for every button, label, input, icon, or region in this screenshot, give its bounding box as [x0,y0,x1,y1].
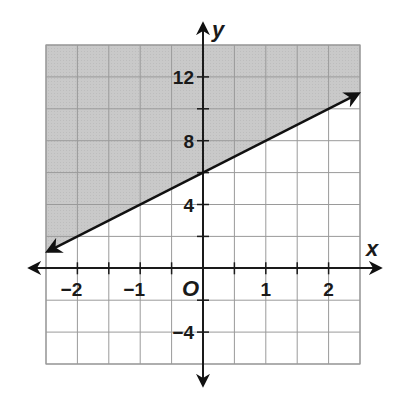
x-axis-label: x [365,236,379,261]
y-tick-label: 4 [183,195,194,216]
x-tick-label: 1 [261,279,272,300]
origin-label: O [182,276,199,301]
y-tick-label: −4 [172,322,194,343]
y-tick-label: 8 [183,131,194,152]
x-tick-label: −1 [123,279,145,300]
inequality-graph: −2−112 1284−4 O x y [0,0,400,396]
x-tick-label: 2 [323,279,334,300]
y-tick-label: 12 [173,67,194,88]
x-tick-label: −2 [61,279,83,300]
y-axis-label: y [211,17,226,42]
